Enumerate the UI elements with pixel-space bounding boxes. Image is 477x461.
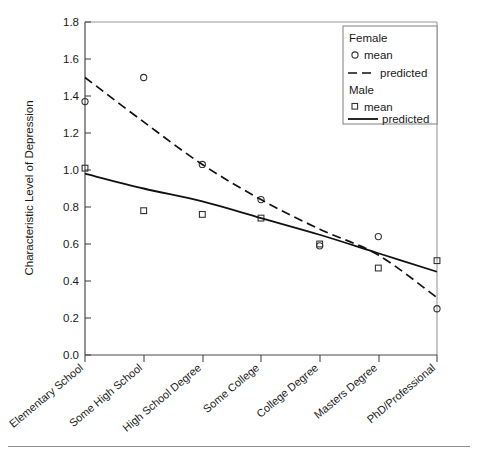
y-tick-label: 1.2 xyxy=(63,127,79,139)
data-point-male-mean xyxy=(199,212,205,218)
y-tick-label: 0.8 xyxy=(63,201,79,213)
data-point-female-mean xyxy=(141,74,147,80)
x-axis-ticks xyxy=(85,355,437,362)
legend-entry-male-mean: mean xyxy=(364,101,393,113)
legend-entry-male-predicted: predicted xyxy=(382,113,429,125)
data-point-male-mean xyxy=(141,208,147,214)
chart-figure: 0.0 0.2 0.4 0.6 0.8 1.0 1.2 1.4 1.6 1.8 … xyxy=(0,0,477,461)
data-point-female-mean xyxy=(375,234,381,240)
y-axis-tick-labels: 0.0 0.2 0.4 0.6 0.8 1.0 1.2 1.4 1.6 1.8 xyxy=(63,16,80,361)
y-tick-label: 0.2 xyxy=(63,312,79,324)
data-point-male-mean xyxy=(375,265,381,271)
y-tick-label: 1.4 xyxy=(63,90,80,102)
legend-entry-female-predicted: predicted xyxy=(380,67,427,79)
legend-group-title-female: Female xyxy=(349,32,387,44)
depression-education-scatter-chart: 0.0 0.2 0.4 0.6 0.8 1.0 1.2 1.4 1.6 1.8 … xyxy=(0,0,477,461)
data-point-female-mean xyxy=(317,243,323,249)
x-tick-label: Some College xyxy=(201,361,262,415)
y-tick-label: 0.6 xyxy=(63,238,79,250)
y-tick-label: 1.0 xyxy=(63,164,79,176)
legend-entry-female-mean: mean xyxy=(364,49,393,61)
series-line-predicted-male xyxy=(85,174,437,272)
y-tick-label: 0.4 xyxy=(63,275,80,287)
x-tick-label: College Degree xyxy=(254,361,320,419)
y-tick-label: 0.0 xyxy=(63,349,79,361)
footer-divider xyxy=(8,446,470,447)
y-tick-label: 1.8 xyxy=(63,16,79,28)
y-axis-ticks xyxy=(85,22,91,355)
y-axis-title: Characteristic Level of Depression xyxy=(23,100,35,275)
chart-legend: Female mean predicted Male mean predicte… xyxy=(343,26,437,125)
legend-group-title-male: Male xyxy=(349,84,374,96)
y-tick-label: 1.6 xyxy=(63,53,79,65)
x-axis-tick-labels: Elementary School Some High School High … xyxy=(7,361,437,433)
